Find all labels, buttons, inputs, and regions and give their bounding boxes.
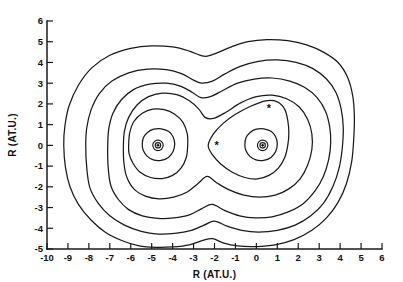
x-axis-title: R (AT.U.) [193, 269, 237, 280]
contour-line-level-6 [245, 129, 277, 161]
nucleus-right-dot [261, 144, 264, 147]
y-tick-label: 0 [38, 140, 43, 151]
contour-plot-figure: ** -10-9-8-7-6-5-4-3-2-10123456 -5-4-3-2… [0, 0, 403, 282]
contour-line-level-5 [129, 109, 188, 179]
y-tick-label: 6 [38, 15, 43, 26]
critical-point-2-asterisk: * [267, 102, 272, 114]
x-tick-label: -5 [147, 252, 156, 263]
x-tick-label: 5 [358, 252, 364, 263]
y-tick-label: -3 [35, 202, 43, 213]
x-tick-label: -8 [85, 252, 93, 263]
x-tick-label: 0 [254, 252, 259, 263]
x-tick-label: -6 [127, 252, 135, 263]
x-tick-label: 2 [296, 252, 301, 263]
contour-line-level-3 [108, 78, 331, 219]
x-tick-label: 4 [337, 252, 343, 263]
markers-group: ** [153, 102, 272, 151]
x-axis-ticks: -10-9-8-7-6-5-4-3-2-10123456 [40, 243, 385, 263]
y-tick-label: 5 [38, 36, 44, 47]
x-tick-label: -7 [106, 252, 114, 263]
x-tick-label: -4 [168, 252, 177, 263]
critical-point-1-asterisk: * [214, 139, 219, 151]
y-axis-ticks: -5-4-3-2-10123456 [35, 15, 53, 254]
y-tick-label: -1 [35, 160, 44, 171]
x-tick-label: 1 [275, 252, 281, 263]
y-tick-label: 3 [38, 78, 43, 89]
y-tick-label: 2 [38, 98, 43, 109]
nucleus-left-dot [157, 144, 160, 147]
y-axis-title: R (AT.U.) [7, 113, 18, 157]
x-tick-label: -3 [189, 252, 197, 263]
x-tick-label: -1 [231, 252, 240, 263]
y-tick-label: 1 [38, 119, 44, 130]
contour-plot-svg: ** -10-9-8-7-6-5-4-3-2-10123456 -5-4-3-2… [0, 0, 403, 282]
x-tick-label: -2 [210, 252, 218, 263]
y-tick-label: 4 [38, 57, 44, 68]
y-tick-label: -2 [35, 181, 43, 192]
y-tick-label: -5 [35, 243, 44, 254]
contour-lines-group [64, 40, 355, 248]
y-tick-label: -4 [35, 223, 44, 234]
x-tick-label: 6 [379, 252, 384, 263]
x-tick-label: 3 [317, 252, 322, 263]
x-tick-label: -9 [64, 252, 72, 263]
